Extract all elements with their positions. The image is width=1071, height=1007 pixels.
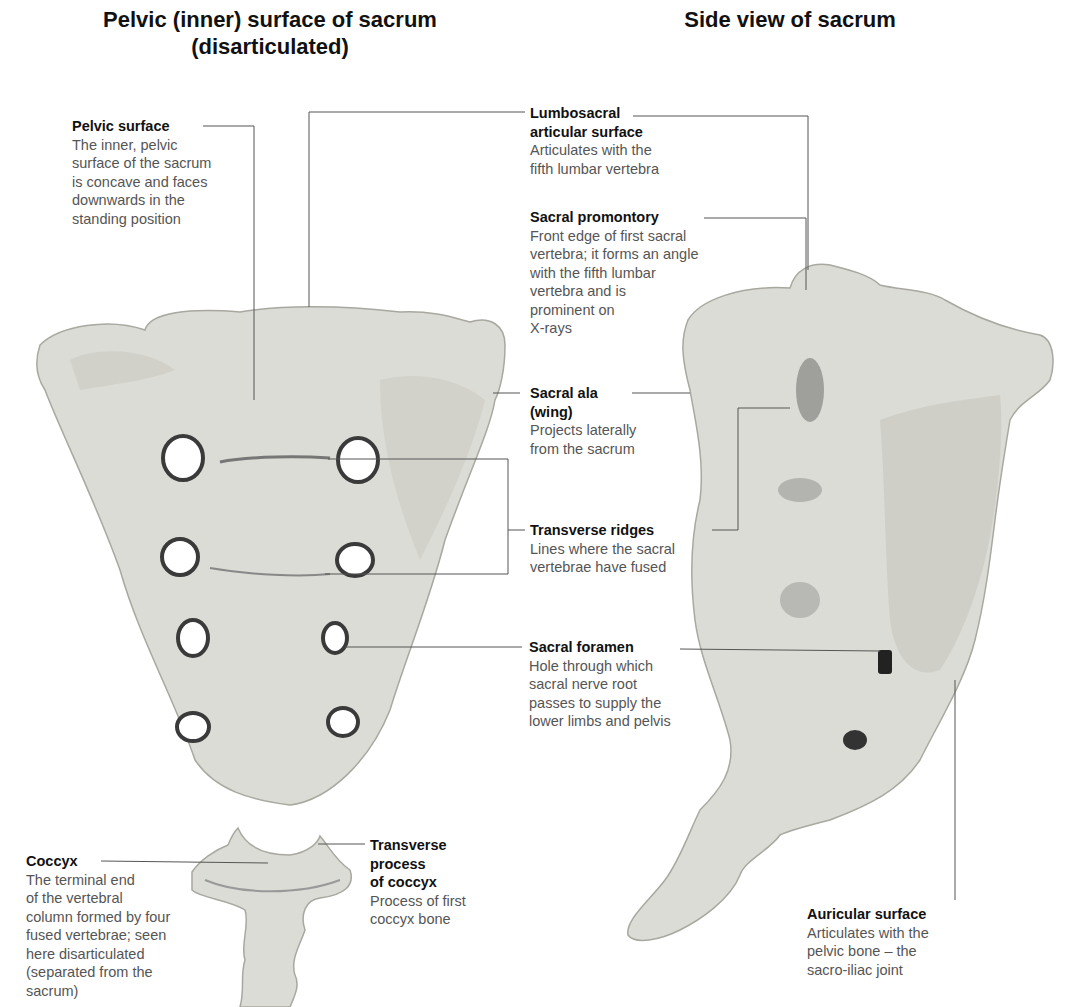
sacrum-front-illustration (37, 307, 505, 805)
label-transverse-ridges: Transverse ridges Lines where the sacral… (530, 521, 730, 577)
transverse-process-description: Process of first coccyx bone (370, 892, 510, 929)
label-sacral-foramen: Sacral foramen Hole through which sacral… (529, 638, 729, 731)
sacral-ala-heading: Sacral ala (wing) (530, 384, 690, 421)
lumbosacral-heading: Lumbosacral articular surface (530, 104, 730, 141)
pelvic-surface-description: The inner, pelvic surface of the sacrum … (72, 136, 272, 229)
label-transverse-process: Transverse process of coccyx Process of … (370, 836, 510, 929)
leader-lumbosacral-front (309, 112, 525, 307)
transverse-ridges-description: Lines where the sacral vertebrae have fu… (530, 540, 730, 577)
label-auricular-surface: Auricular surface Articulates with the p… (807, 905, 1007, 979)
pelvic-surface-heading: Pelvic surface (72, 117, 272, 136)
sacrum-side-illustration (628, 264, 1053, 940)
label-pelvic-surface: Pelvic surface The inner, pelvic surface… (72, 117, 272, 228)
coccyx-description: The terminal end of the vertebral column… (26, 871, 206, 1001)
auricular-surface-heading: Auricular surface (807, 905, 1007, 924)
transverse-process-heading: Transverse process of coccyx (370, 836, 510, 892)
sacral-promontory-heading: Sacral promontory (530, 208, 740, 227)
sacral-ala-description: Projects laterally from the sacrum (530, 421, 690, 458)
sacral-foramen-description: Hole through which sacral nerve root pas… (529, 657, 729, 731)
lumbosacral-description: Articulates with the fifth lumbar verteb… (530, 141, 730, 178)
sacral-promontory-description: Front edge of first sacral vertebra; it … (530, 227, 740, 338)
coccyx-illustration (192, 828, 351, 1007)
transverse-ridges-heading: Transverse ridges (530, 521, 730, 540)
label-sacral-ala: Sacral ala (wing) Projects laterally fro… (530, 384, 690, 458)
label-sacral-promontory: Sacral promontory Front edge of first sa… (530, 208, 740, 338)
auricular-surface-description: Articulates with the pelvic bone – the s… (807, 924, 1007, 980)
label-coccyx: Coccyx The terminal end of the vertebral… (26, 852, 206, 1000)
label-lumbosacral: Lumbosacral articular surface Articulate… (530, 104, 730, 178)
coccyx-heading: Coccyx (26, 852, 206, 871)
sacral-foramen-heading: Sacral foramen (529, 638, 729, 657)
